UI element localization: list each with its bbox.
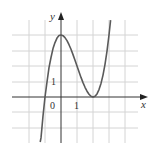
- grid: [12, 20, 138, 143]
- y-axis-arrow-icon: [58, 12, 64, 20]
- y-axis-label: y: [49, 10, 55, 22]
- x-tick-label: 1: [74, 100, 79, 111]
- y-tick-label: 1: [51, 76, 56, 87]
- origin-label: 0: [50, 100, 55, 111]
- x-axis-label: x: [140, 98, 146, 110]
- function-graph: y x 0 1 1: [0, 0, 155, 153]
